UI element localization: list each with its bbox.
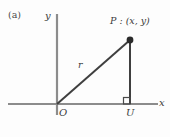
x-axis-label: x (159, 98, 165, 108)
foot-point-label: U (126, 108, 134, 118)
point-p-label: P : (x, y) (110, 16, 150, 26)
geometry-figure-panel: (a) y x O U r P : (x, y) (0, 0, 170, 137)
radius-label: r (78, 60, 83, 70)
y-axis-label: y (45, 11, 51, 21)
origin-label: O (59, 108, 67, 118)
panel-label: (a) (8, 10, 21, 20)
point-p-dot (127, 37, 134, 44)
hypotenuse-segment-r (57, 40, 130, 104)
